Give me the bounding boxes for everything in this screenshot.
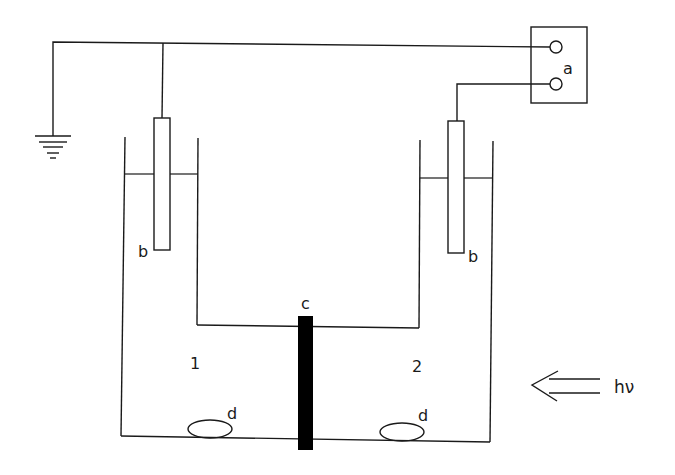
label-d-left: d (227, 404, 237, 423)
label-compartment-1: 1 (190, 354, 200, 373)
label-compartment-2: 2 (412, 357, 422, 376)
label-d-right: d (418, 406, 428, 425)
instrument-a: a (531, 27, 587, 103)
label-light: hν (614, 377, 634, 397)
light-arrow-icon (532, 371, 600, 401)
label-b-right: b (468, 247, 478, 266)
left-electrode (154, 118, 170, 250)
terminal-upper (550, 41, 562, 53)
right-inner-wall (419, 140, 420, 328)
ground-icon (35, 136, 71, 158)
instrument-box (531, 27, 587, 103)
left-outer-wall (121, 137, 125, 436)
label-a: a (563, 59, 573, 78)
right-outer-wall (490, 141, 493, 442)
left-inner-wall (197, 138, 198, 325)
left-electrode-wire (162, 43, 163, 118)
label-b-left: b (138, 242, 148, 261)
label-c: c (301, 294, 310, 313)
terminal-lower (550, 78, 562, 90)
right-electrode (448, 121, 464, 253)
diagram-canvas: a b b c 1 2 d d hν (0, 0, 675, 475)
membrane-c (298, 316, 313, 450)
stir-bar-right (380, 423, 424, 441)
top-wire (53, 42, 550, 136)
stir-bar-left (188, 420, 232, 438)
